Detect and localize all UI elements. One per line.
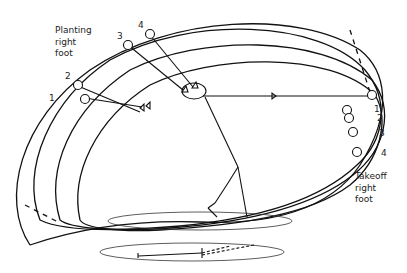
takeoff-markers — [343, 91, 377, 157]
ice-ellipse-lower — [100, 243, 284, 261]
planting-number-3: 3 — [117, 31, 123, 41]
jump-diagram: Planting right foot 1 2 3 4 1 2 3 4 Take… — [0, 0, 407, 273]
takeoff-marker-3 — [349, 128, 358, 137]
planting-marker-4 — [146, 30, 155, 39]
planting-number-1: 1 — [49, 93, 55, 103]
takeoff-number-3: 3 — [379, 128, 385, 138]
takeoff-marker-2b — [345, 114, 354, 123]
planting-number-2: 2 — [65, 71, 71, 81]
planting-marker-1 — [81, 95, 90, 104]
planting-label-line3: foot — [55, 48, 73, 58]
takeoff-label-line1: Takeoff — [354, 171, 387, 181]
blade-tracing — [138, 245, 254, 258]
takeoff-marker-4 — [353, 148, 362, 157]
takeoff-marker-1 — [368, 91, 377, 100]
takeoff-label-line2: right — [355, 183, 377, 193]
takeoff-label-line3: foot — [355, 194, 373, 204]
skater-figure — [78, 35, 372, 217]
planting-marker-3 — [124, 41, 133, 50]
exit-dashed-line — [25, 205, 58, 222]
planting-label-line2: right — [55, 37, 77, 47]
planting-marker-2 — [74, 81, 83, 90]
takeoff-number-4: 4 — [381, 148, 387, 158]
planting-number-4: 4 — [138, 20, 144, 30]
planting-label-line1: Planting — [55, 25, 92, 35]
takeoff-number-2: 2 — [377, 113, 383, 123]
planting-markers — [74, 30, 155, 104]
